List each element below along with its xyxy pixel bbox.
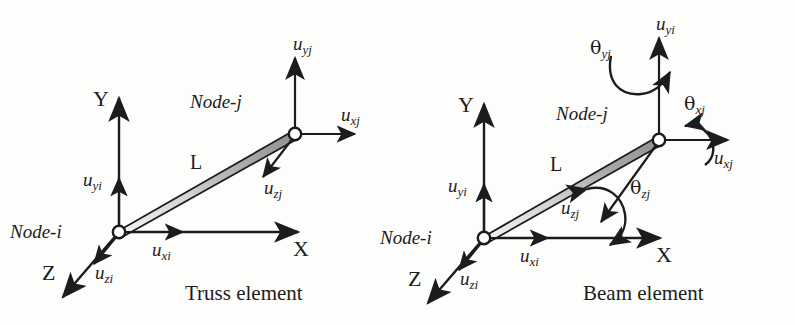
- truss-element-diagram: Y X Z Node-i Node-j L uxi uyi uzi uxj uy…: [0, 0, 397, 325]
- u-yi-label: uyi: [448, 176, 467, 198]
- theta-xj-label: θxj: [684, 94, 705, 116]
- node-i-marker: [113, 226, 125, 238]
- node-j-marker: [653, 134, 665, 146]
- node-i-marker: [478, 232, 490, 244]
- theta-zj-label: θzj: [630, 178, 650, 200]
- beam-element-diagram: Y X Z Node-i Node-j L uxi uyi uzi uxj uy…: [398, 0, 795, 325]
- x-axis-label: X: [293, 238, 309, 260]
- u-zj-label: uzj: [561, 198, 579, 220]
- u-zj-label: uzj: [264, 178, 282, 200]
- u-xj-label: uxj: [341, 105, 360, 127]
- node-i-label: Node-i: [10, 222, 62, 241]
- u-yj-label: uyj: [293, 34, 312, 56]
- node-j-label: Node-j: [556, 104, 608, 123]
- u-xj-label: uxj: [714, 148, 733, 170]
- theta-yj-label: θyj: [590, 38, 611, 60]
- theta-yj-arc: [610, 56, 670, 94]
- node-i-label: Node-i: [380, 228, 432, 247]
- x-axis-label: X: [656, 244, 672, 266]
- length-label: L: [550, 154, 562, 174]
- z-axis-label: Z: [408, 268, 422, 290]
- u-zi-arrow: [94, 236, 117, 264]
- u-zi-label: uzi: [95, 263, 113, 285]
- y-axis-label: Y: [458, 94, 474, 116]
- u-yj-label: uyi: [656, 14, 675, 36]
- theta-xj-arc: [685, 125, 713, 165]
- beam-caption: Beam element: [583, 283, 704, 304]
- node-j-marker: [289, 128, 301, 140]
- u-zi-arrow: [459, 242, 482, 270]
- u-xi-label: uxi: [152, 240, 171, 262]
- length-label: L: [190, 152, 202, 172]
- z-axis-label: Z: [42, 262, 56, 284]
- node-j-label: Node-j: [190, 92, 242, 111]
- u-yi-label: uyi: [83, 170, 102, 192]
- u-xi-label: uxi: [520, 246, 539, 268]
- y-axis-label: Y: [93, 88, 109, 110]
- u-zi-label: uzi: [460, 269, 478, 291]
- figure-canvas: Y X Z Node-i Node-j L uxi uyi uzi uxj uy…: [0, 0, 795, 325]
- truss-caption: Truss element: [185, 283, 303, 304]
